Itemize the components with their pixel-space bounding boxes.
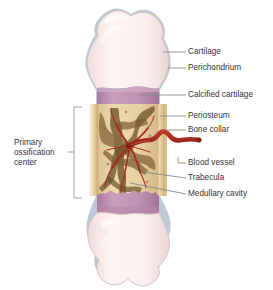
label-trabecula: Trabecula	[188, 173, 224, 183]
primary-ossification-bracket	[68, 107, 82, 198]
label-cartilage: Cartilage	[188, 47, 221, 57]
upper-cartilage-epiphysis	[88, 11, 169, 88]
label-primary-ossification-center: Primary ossification center	[14, 138, 66, 167]
label-line-3: center	[14, 158, 66, 168]
lower-cartilage-epiphysis	[88, 213, 170, 287]
bone-ossification-diagram: Cartilage Perichondrium Calcified cartil…	[0, 0, 273, 290]
label-perichondrium: Perichondrium	[188, 63, 241, 73]
label-line-2: ossification	[14, 148, 66, 158]
label-periosteum: Periosteum	[188, 111, 230, 121]
leader-blood-vessel	[178, 157, 186, 163]
label-line-1: Primary	[14, 138, 66, 148]
label-blood-vessel: Blood vessel	[188, 158, 235, 168]
lower-calcified-cartilage	[97, 191, 159, 215]
label-bone-collar: Bone collar	[188, 125, 229, 135]
label-calcified-cartilage: Calcified cartilage	[188, 90, 253, 100]
label-medullary-cavity: Medullary cavity	[188, 189, 247, 199]
